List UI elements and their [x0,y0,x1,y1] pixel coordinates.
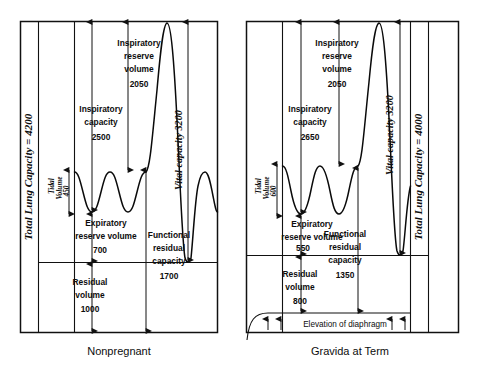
inspiratory-capacity-value-left: 2500 [92,132,111,142]
figure-canvas: Total Lung Capacity = 4200 Tidal Volume … [0,0,479,370]
functional-residual-line2-left: residual [153,243,185,253]
inspiratory-reserve-line2-right: reserve [322,51,352,61]
functional-residual-value-left: 1700 [160,271,179,281]
panel-gravida-at-term: Total Lung Capacity = 4000 Tidal Volume … [247,22,459,357]
residual-volume-line2-right: volume [285,282,315,292]
functional-residual-line1-left: Functional [148,230,190,240]
inspiratory-capacity-line1-right: Inspiratory [288,104,332,114]
total-lung-capacity-label-right: Total Lung Capacity = 4000 [412,113,424,240]
residual-volume-value-right: 800 [293,296,307,306]
spirogram-figure: Total Lung Capacity = 4200 Tidal Volume … [0,0,479,370]
residual-volume-line1-left: Residual [73,277,108,287]
panel-caption-right: Gravida at Term [311,345,389,357]
inspiratory-reserve-value-right: 2050 [328,79,347,89]
residual-volume-value-left: 1000 [81,304,100,314]
residual-volume-line2-left: volume [75,290,105,300]
inspiratory-capacity-line1-left: Inspiratory [79,104,123,114]
vital-capacity-label-left: Vital capacity 3200 [173,110,184,190]
functional-residual-line3-right: capacity [328,255,362,265]
expiratory-reserve-value-right: 550 [296,243,310,253]
functional-residual-value-right: 1350 [336,270,355,280]
inspiratory-reserve-line3-left: volume [124,64,154,74]
panel-caption-left: Nonpregnant [87,345,151,357]
expiratory-reserve-line2-left: reserve volume [75,231,137,241]
expiratory-reserve-line1-right: Expiratory [291,219,333,229]
inspiratory-reserve-line3-right: volume [322,64,352,74]
diaphragm-label: Elevation of diaphragm [303,320,387,329]
inspiratory-reserve-line2-left: reserve [124,51,154,61]
inspiratory-reserve-line1-right: Inspiratory [315,38,359,48]
inspiratory-reserve-value-left: 2050 [130,79,149,89]
inspiratory-capacity-line2-right: capacity [293,117,327,127]
panel-nonpregnant: Total Lung Capacity = 4200 Tidal Volume … [21,22,218,357]
tidal-volume-value-right: 600 [269,185,278,196]
functional-residual-line3-left: capacity [152,256,186,266]
expiratory-reserve-value-left: 700 [93,245,107,255]
tidal-volume-value-left: 450 [62,185,71,197]
residual-volume-line1-right: Residual [283,269,318,279]
inspiratory-capacity-line2-left: capacity [84,117,118,127]
inspiratory-capacity-value-right: 2650 [301,132,320,142]
functional-residual-line1-right: Functional [324,229,366,239]
inspiratory-reserve-line1-left: Inspiratory [117,38,161,48]
functional-residual-line2-right: residual [329,242,361,252]
vital-capacity-label-right: Vital capacity 3200 [384,95,395,175]
expiratory-reserve-line1-left: Expiratory [85,218,127,228]
total-lung-capacity-label-left: Total Lung Capacity = 4200 [22,113,34,240]
